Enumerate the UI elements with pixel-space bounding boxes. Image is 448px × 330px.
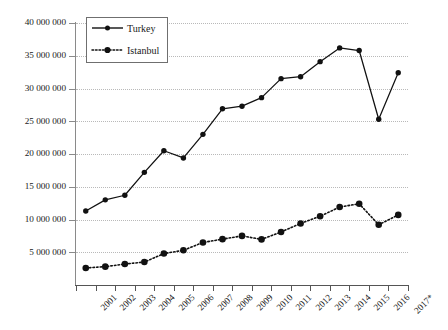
data-point [103, 197, 108, 202]
data-point [297, 220, 304, 227]
data-point [122, 261, 129, 268]
legend-item-istanbul: Istanbul [87, 40, 167, 62]
data-point [82, 265, 89, 272]
data-point [278, 76, 283, 81]
data-point [122, 193, 127, 198]
data-point [317, 59, 322, 64]
data-point [102, 263, 109, 270]
data-point [181, 155, 186, 160]
series-istanbul [82, 200, 401, 271]
data-point [298, 74, 303, 79]
data-point [220, 106, 225, 111]
data-point [142, 170, 147, 175]
data-point [239, 233, 246, 240]
data-series-layer [0, 0, 448, 330]
data-point [83, 208, 88, 213]
data-point [336, 204, 343, 211]
data-point [161, 250, 168, 257]
data-point [200, 239, 207, 246]
data-point [259, 95, 264, 100]
data-point [356, 48, 361, 53]
data-point [278, 229, 285, 236]
data-point [258, 236, 265, 243]
data-point [395, 212, 402, 219]
data-point [356, 200, 363, 207]
data-point [219, 236, 226, 243]
series-turkey [83, 45, 401, 214]
data-point [239, 103, 244, 108]
data-point [376, 117, 381, 122]
legend-label-turkey: Turkey [127, 23, 156, 34]
data-point [200, 132, 205, 137]
tourist-arrivals-line-chart: 40 000 00035 000 00030 000 00025 000 000… [0, 0, 448, 330]
data-point [317, 213, 324, 220]
data-point [141, 259, 148, 266]
data-point [396, 70, 401, 75]
legend-line-sample-dotted [91, 46, 124, 54]
data-point [180, 247, 187, 254]
data-point [375, 221, 382, 228]
legend-item-turkey: Turkey [87, 18, 167, 40]
data-point [161, 148, 166, 153]
series-line [86, 48, 398, 211]
legend-label-istanbul: Istanbul [127, 45, 159, 56]
legend-line-sample-solid [91, 24, 124, 32]
legend: Turkey Istanbul [86, 17, 168, 63]
data-point [337, 45, 342, 50]
